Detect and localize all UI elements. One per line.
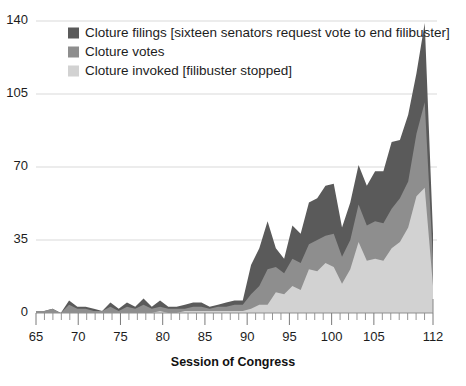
chart-svg: 03570105140 65707580859095100105112 Clot… [0, 0, 466, 386]
x-tick-label-90: 90 [240, 329, 254, 344]
x-tick-label-95: 95 [282, 329, 296, 344]
x-axis-title: Session of Congress [171, 355, 295, 369]
x-tick-label-75: 75 [113, 329, 127, 344]
legend-group: Cloture filings [sixteen senators reques… [68, 25, 450, 78]
y-tick-labels-group: 03570105140 [6, 12, 28, 319]
y-tick-label-140: 140 [6, 12, 28, 27]
x-tick-label-80: 80 [155, 329, 169, 344]
x-tick-labels-group: 65707580859095100105112 [29, 329, 444, 344]
x-tick-label-105: 105 [363, 329, 385, 344]
x-tick-label-70: 70 [71, 329, 85, 344]
y-tick-label-0: 0 [21, 304, 28, 319]
y-tick-label-105: 105 [6, 85, 28, 100]
x-tick-label-65: 65 [29, 329, 43, 344]
x-tick-label-100: 100 [321, 329, 343, 344]
legend-label-invoked: Cloture invoked [filibuster stopped] [85, 63, 292, 78]
tick-marks-group [36, 313, 433, 325]
legend-label-filings: Cloture filings [sixteen senators reques… [85, 25, 450, 40]
legend-swatch-votes [68, 47, 79, 58]
y-tick-label-70: 70 [14, 158, 28, 173]
y-tick-label-35: 35 [14, 231, 28, 246]
x-tick-label-85: 85 [198, 329, 212, 344]
legend-label-votes: Cloture votes [85, 44, 165, 59]
cloture-area-chart: 03570105140 65707580859095100105112 Clot… [0, 0, 466, 386]
legend-swatch-filings [68, 28, 79, 39]
legend-swatch-invoked [68, 66, 79, 77]
x-tick-label-112: 112 [423, 329, 444, 344]
